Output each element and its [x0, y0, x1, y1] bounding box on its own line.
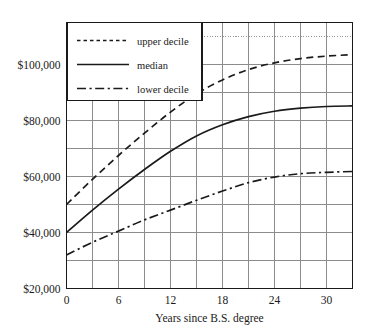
legend: upper decilemedianlower decile	[67, 23, 202, 101]
earnings-chart: $20,000$40,000$60,000$80,000$100,0000612…	[0, 0, 367, 335]
x-tick-label: 6	[116, 294, 122, 306]
legend-label: lower decile	[137, 84, 189, 95]
x-tick-label: 12	[165, 294, 177, 306]
y-tick-label: $100,000	[17, 59, 60, 72]
y-axis-labels: $20,000$40,000$60,000$80,000$100,000	[17, 59, 60, 296]
y-tick-label: $60,000	[23, 171, 61, 184]
y-tick-label: $40,000	[23, 227, 61, 240]
chart-canvas: $20,000$40,000$60,000$80,000$100,0000612…	[0, 0, 367, 335]
x-tick-label: 24	[269, 294, 281, 306]
x-tick-label: 30	[321, 294, 333, 306]
legend-label: median	[137, 60, 169, 71]
x-tick-label: 18	[217, 294, 229, 306]
y-tick-label: $20,000	[23, 283, 61, 296]
x-axis-labels: 0612182430	[64, 294, 333, 306]
y-tick-label: $80,000	[23, 115, 61, 128]
x-tick-label: 0	[64, 294, 70, 306]
x-axis-title: Years since B.S. degree	[155, 312, 263, 325]
legend-label: upper decile	[137, 36, 189, 47]
